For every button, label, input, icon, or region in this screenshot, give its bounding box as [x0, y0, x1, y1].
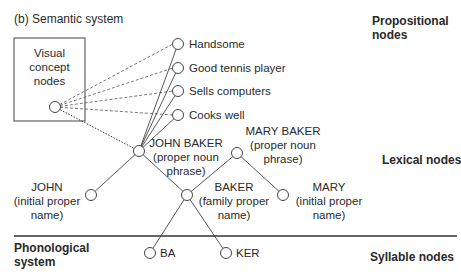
mary-line-2: (initial proper	[289, 195, 369, 208]
proposition-tennis: Good tennis player	[189, 62, 286, 75]
syllable-ba: BA	[160, 247, 175, 260]
phonological-label-1: Phonological	[14, 241, 89, 255]
propositional-label-2: nodes	[372, 28, 407, 42]
john-baker-line-3: phrase)	[146, 165, 226, 178]
diagram-title: (b) Semantic system	[14, 13, 123, 26]
john-baker-line-1: JOHN BAKER	[146, 137, 226, 150]
mary-baker-line-1: MARY BAKER	[243, 125, 323, 138]
mary-line-1: MARY	[289, 181, 369, 194]
phonological-label-2: system	[14, 255, 55, 269]
baker-line-1: BAKER	[194, 181, 274, 194]
proposition-cooks: Cooks well	[189, 109, 245, 122]
visual-box-line-2: concept	[14, 61, 85, 74]
mary-line-3: name)	[289, 209, 369, 222]
visual-box-line-3: nodes	[14, 75, 85, 88]
john-line-2: (initial proper	[8, 195, 86, 208]
baker-line-3: name)	[194, 209, 274, 222]
syllable-label: Syllable nodes	[370, 250, 454, 264]
propositional-label-1: Propositional	[372, 14, 449, 28]
syllable-ker: KER	[236, 247, 260, 260]
baker-line-2: (family proper	[194, 195, 274, 208]
john-baker-line-2: (proper noun	[146, 151, 226, 164]
mary-baker-line-2: (proper noun	[243, 139, 323, 152]
proposition-handsome: Handsome	[189, 38, 245, 51]
lexical-label: Lexical nodes	[382, 153, 461, 167]
john-line-1: JOHN	[8, 181, 86, 194]
proposition-computers: Sells computers	[189, 85, 271, 98]
john-line-3: name)	[8, 209, 86, 222]
mary-baker-line-3: phrase)	[243, 153, 323, 166]
visual-box-line-1: Visual	[14, 47, 85, 60]
